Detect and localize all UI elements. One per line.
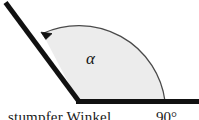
- angle-label-alpha: α: [86, 50, 95, 67]
- angle-sector-fill: [43, 26, 166, 101]
- angle-figure: α stumpfer Winkel 90°: [0, 0, 199, 120]
- caption-angle-value: 90°: [156, 110, 177, 120]
- caption-strip: stumpfer Winkel 90°: [0, 110, 199, 120]
- angle-diagram-svg: [0, 0, 199, 120]
